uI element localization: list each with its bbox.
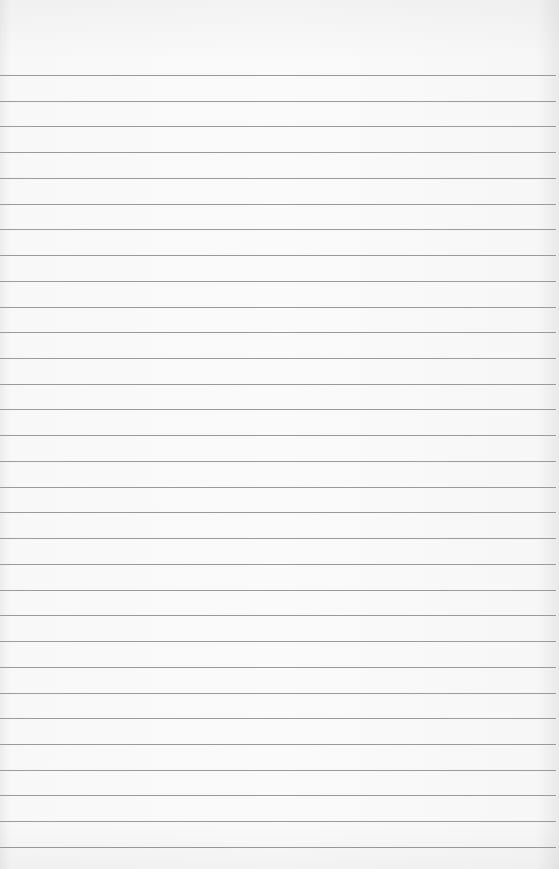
ruled-line (0, 332, 556, 333)
ruled-line (0, 307, 556, 308)
ruled-line (0, 590, 556, 591)
ruled-line (0, 255, 556, 256)
ruled-line (0, 718, 556, 719)
ruled-line (0, 101, 556, 102)
ruled-line (0, 641, 556, 642)
ruled-line (0, 744, 556, 745)
ruled-line (0, 152, 556, 153)
ruled-line (0, 229, 556, 230)
ruled-line (0, 821, 556, 822)
ruled-line (0, 178, 556, 179)
ruled-line (0, 409, 556, 410)
ruled-line (0, 281, 556, 282)
ruled-line (0, 564, 556, 565)
ruled-line (0, 384, 556, 385)
ruled-line (0, 487, 556, 488)
ruled-line (0, 126, 556, 127)
ruled-line (0, 693, 556, 694)
ruled-line (0, 795, 556, 796)
ruled-line (0, 358, 556, 359)
ruled-line (0, 461, 556, 462)
ruled-line (0, 435, 556, 436)
ruled-line (0, 667, 556, 668)
lined-paper-sheet (0, 0, 559, 869)
ruled-line (0, 538, 556, 539)
ruled-line (0, 615, 556, 616)
ruled-line (0, 204, 556, 205)
ruled-line (0, 770, 556, 771)
ruled-line (0, 75, 556, 76)
ruled-line (0, 512, 556, 513)
ruled-line (0, 847, 556, 848)
